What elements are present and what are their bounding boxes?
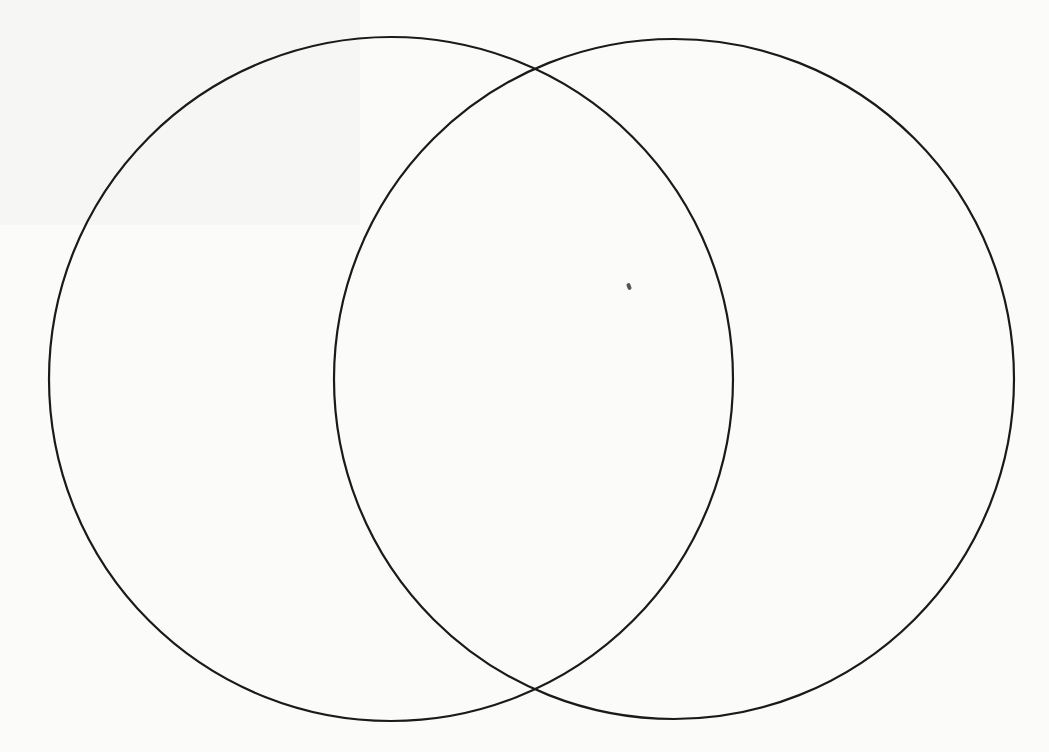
bleed-through-image-area	[0, 0, 360, 225]
venn-diagram	[0, 0, 1049, 752]
venn-diagram-svg	[0, 0, 1049, 752]
